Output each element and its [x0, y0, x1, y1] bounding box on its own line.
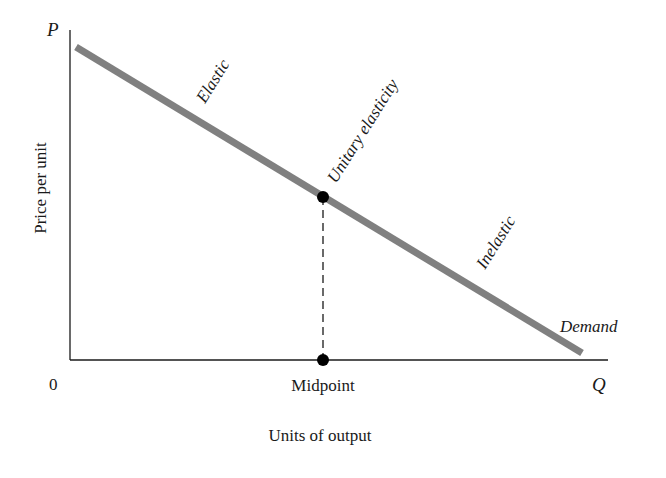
demand-curve-label: Demand	[559, 317, 618, 336]
inelastic-label: Inelastic	[472, 212, 520, 273]
elastic-label: Elastic	[192, 56, 234, 107]
midpoint-label: Midpoint	[291, 376, 355, 395]
midpoint-point	[317, 354, 329, 366]
x-axis-symbol: Q	[592, 374, 606, 395]
x-axis-label: Units of output	[269, 426, 372, 445]
y-axis-symbol: P	[46, 19, 59, 40]
unitary-elasticity-label: Unitary elasticity	[323, 75, 402, 186]
demand-elasticity-diagram: P Q 0 Midpoint Units of output Price per…	[0, 0, 666, 478]
y-axis-label: Price per unit	[31, 142, 50, 234]
unitary-elasticity-point	[317, 191, 329, 203]
origin-label: 0	[49, 375, 58, 394]
demand-curve	[76, 47, 582, 353]
